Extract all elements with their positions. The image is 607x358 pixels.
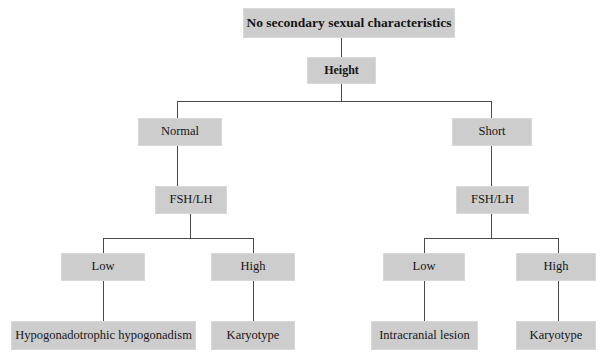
edge-left-low-to-leaf xyxy=(103,281,104,321)
edge-right-split-bar xyxy=(424,238,559,239)
edge-split-right-drop xyxy=(491,101,492,118)
node-intracranial-lesion: Intracranial lesion xyxy=(371,321,478,350)
edge-root-to-height xyxy=(341,38,342,57)
edge-right-low-to-leaf xyxy=(424,281,425,321)
edge-left-high-drop xyxy=(253,238,254,253)
node-root: No secondary sexual characteristics xyxy=(243,8,455,38)
node-short: Short xyxy=(452,118,532,146)
node-right-high: High xyxy=(516,253,596,281)
edge-normal-to-fshlh xyxy=(177,146,178,186)
node-left-high: High xyxy=(211,253,295,281)
node-left-low: Low xyxy=(61,253,145,281)
edge-right-fshlh-to-split xyxy=(491,214,492,238)
edge-right-high-drop xyxy=(558,238,559,253)
edge-right-low-drop xyxy=(424,238,425,253)
node-right-fshlh: FSH/LH xyxy=(456,186,529,214)
node-hypogonadotrophic-hypogonadism: Hypogonadotrophic hypogonadism xyxy=(11,321,196,350)
edge-left-high-to-leaf xyxy=(253,281,254,321)
edge-left-low-drop xyxy=(103,238,104,253)
node-left-fshlh: FSH/LH xyxy=(155,186,227,214)
node-height: Height xyxy=(307,57,376,84)
node-left-karyotype: Karyotype xyxy=(211,321,295,350)
edge-left-fshlh-to-split xyxy=(190,214,191,238)
node-right-karyotype: Karyotype xyxy=(516,321,596,350)
edge-split-left-drop xyxy=(177,101,178,118)
edge-left-split-bar xyxy=(103,238,254,239)
edge-split-bar-top xyxy=(177,101,492,102)
edge-height-to-split xyxy=(341,84,342,102)
edge-short-to-fshlh xyxy=(491,146,492,186)
flowchart-canvas: No secondary sexual characteristics Heig… xyxy=(0,0,607,358)
edge-right-high-to-leaf xyxy=(558,281,559,321)
node-normal: Normal xyxy=(138,118,222,146)
node-right-low: Low xyxy=(383,253,465,281)
